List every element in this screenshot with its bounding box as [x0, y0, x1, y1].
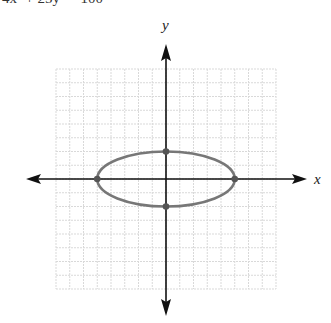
- y-axis-label: y: [160, 17, 169, 33]
- vertex-point: [94, 176, 101, 183]
- vertex-point: [163, 203, 170, 210]
- x-axis-label: x: [313, 171, 321, 187]
- ellipse-graph: x y: [0, 0, 331, 323]
- vertex-point: [231, 176, 238, 183]
- vertex-point: [163, 148, 170, 155]
